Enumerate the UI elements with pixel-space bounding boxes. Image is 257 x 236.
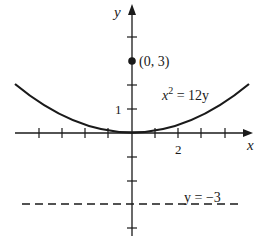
y-axis-arrow-icon [128, 4, 136, 15]
equation-label: x2 = 12y [161, 85, 209, 103]
x-axis-label: x [246, 137, 254, 153]
y-tick-label-1: 1 [115, 102, 122, 117]
focus-label: (0, 3) [139, 54, 170, 70]
y-axis-label: y [112, 4, 121, 20]
directrix-label: y = −3 [184, 190, 221, 205]
y-axis [128, 4, 136, 236]
parabola-diagram: y x 2 1 (0, 3) x2 = 12y y = −3 [0, 0, 257, 236]
focus-point [128, 57, 136, 65]
equation-rhs: = 12y [173, 88, 209, 103]
x-tick-label-2: 2 [175, 142, 182, 157]
x-axis-arrow-icon [243, 129, 253, 137]
